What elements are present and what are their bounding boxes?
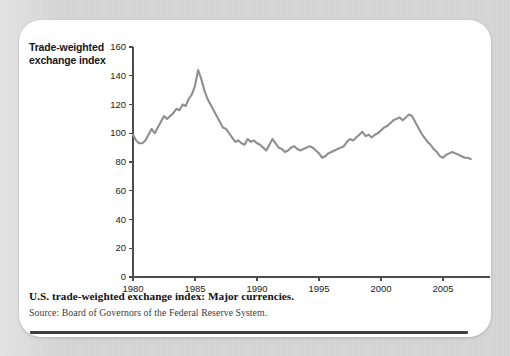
chart-axes [129, 47, 490, 281]
figure-source: Source: Board of Governors of the Federa… [29, 307, 469, 318]
y-tick-label: 20 [91, 242, 126, 253]
series-line [133, 70, 471, 159]
figure-caption: U.S. trade-weighted exchange index: Majo… [29, 290, 469, 302]
chart-series [133, 70, 471, 159]
y-tick-label: 140 [91, 70, 126, 81]
bottom-divider [30, 331, 468, 334]
figure-card: Trade-weighted exchange index 0204060801… [19, 20, 491, 337]
y-tick-label: 80 [91, 156, 126, 167]
chart-figure: Trade-weighted exchange index 0204060801… [19, 20, 491, 337]
y-tick-label: 60 [91, 185, 126, 196]
y-tick-label: 120 [91, 99, 126, 110]
y-tick-label: 160 [91, 41, 126, 52]
y-tick-label: 0 [91, 271, 126, 282]
y-tick-label: 100 [91, 127, 126, 138]
y-tick-label: 40 [91, 214, 126, 225]
